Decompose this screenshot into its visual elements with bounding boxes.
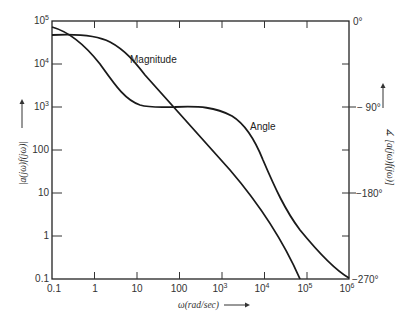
bode-plot: 0.1 1 10 100 103 104 105 106 105 104 103…	[0, 0, 400, 320]
magnitude-label: Magnitude	[130, 54, 177, 65]
svg-text:100: 100	[171, 283, 188, 294]
svg-text:10: 10	[131, 283, 143, 294]
svg-text:105: 105	[34, 14, 49, 26]
svg-text:−270°: −270°	[352, 274, 379, 285]
svg-text:103: 103	[34, 100, 49, 112]
svg-text:100: 100	[32, 144, 49, 155]
y-left-tick-labels: 105 104 103 100 10 1 0.1	[32, 14, 49, 284]
bottom-ticks	[95, 272, 308, 279]
x-axis-title: ω(rad/sec)	[178, 300, 250, 311]
svg-text:0.1: 0.1	[35, 273, 49, 284]
y-left-axis-title: |a(jω)f(jω)|	[18, 99, 29, 185]
svg-text:∡ [a(jω)f(jω)]: ∡ [a(jω)f(jω)]	[384, 128, 395, 186]
svg-text:104: 104	[34, 57, 49, 69]
svg-text:− 90°: − 90°	[357, 102, 381, 113]
svg-text:−180°: −180°	[356, 188, 383, 199]
x-tick-labels: 0.1 1 10 100 103 104 105 106	[47, 282, 355, 294]
y-right-tick-labels: 0° − 90° −180° −270°	[352, 16, 383, 285]
svg-text:0°: 0°	[353, 16, 363, 27]
left-ticks	[52, 64, 62, 236]
svg-text:1: 1	[92, 283, 98, 294]
magnitude-curve	[52, 35, 300, 279]
svg-text:1: 1	[43, 230, 49, 241]
svg-text:ω(rad/sec): ω(rad/sec)	[178, 300, 219, 311]
svg-text:105: 105	[297, 282, 312, 294]
svg-text:103: 103	[212, 282, 227, 294]
angle-curve	[52, 27, 349, 278]
svg-text:|a(jω)f(jω)|: |a(jω)f(jω)|	[18, 141, 29, 185]
y-right-axis-title: ∡ [a(jω)f(jω)]	[381, 83, 396, 186]
angle-label: Angle	[250, 121, 276, 132]
svg-text:0.1: 0.1	[47, 283, 61, 294]
top-ticks	[95, 21, 308, 28]
svg-text:104: 104	[254, 282, 269, 294]
svg-text:10: 10	[38, 187, 50, 198]
